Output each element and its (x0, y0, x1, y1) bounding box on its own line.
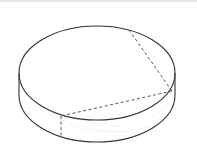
side-shading (24, 92, 172, 132)
cylinder-diagram (0, 0, 197, 160)
cut-lines (61, 30, 172, 137)
top-ellipse (19, 26, 175, 120)
